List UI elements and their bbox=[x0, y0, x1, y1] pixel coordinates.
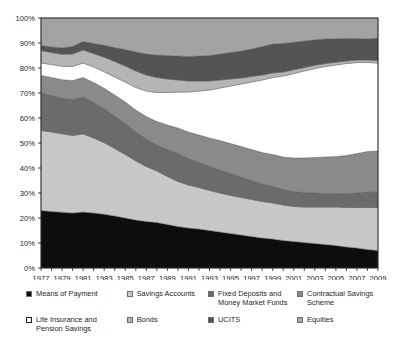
x-tick-label: 2007 bbox=[348, 274, 365, 280]
y-tick-label: 60% bbox=[20, 114, 35, 123]
legend-label: Bonds bbox=[137, 315, 158, 324]
y-tick-label: 20% bbox=[20, 214, 35, 223]
x-tick-label: 1977 bbox=[33, 274, 50, 280]
y-tick-label: 80% bbox=[20, 64, 35, 73]
legend-item[interactable]: Life Insurance and Pension Savings bbox=[26, 315, 127, 334]
legend-swatch-icon bbox=[297, 291, 303, 297]
legend-row: Life Insurance and Pension SavingsBondsU… bbox=[26, 315, 390, 334]
x-tick-label: 1989 bbox=[159, 274, 176, 280]
legend-label: Life Insurance and Pension Savings bbox=[36, 315, 123, 334]
legend-swatch-icon bbox=[208, 317, 214, 323]
chart-figure: 0%10%20%30%40%50%60%70%80%90%100%1977197… bbox=[0, 0, 396, 345]
legend-label: Equities bbox=[307, 315, 333, 324]
legend-swatch-icon bbox=[26, 291, 32, 297]
legend-label: Means of Payment bbox=[36, 289, 98, 298]
legend-row: Means of PaymentSavings AccountsFixed De… bbox=[26, 289, 390, 308]
x-tick-label: 2009 bbox=[370, 274, 387, 280]
legend-label: Contractual Savings Scheme bbox=[307, 289, 386, 308]
legend-swatch-icon bbox=[208, 291, 214, 297]
x-tick-label: 1991 bbox=[180, 274, 197, 280]
legend-label: Savings Accounts bbox=[137, 289, 195, 298]
legend-item[interactable]: Bonds bbox=[127, 315, 208, 334]
y-tick-label: 90% bbox=[20, 39, 35, 48]
chart-legend: Means of PaymentSavings AccountsFixed De… bbox=[0, 286, 396, 345]
x-tick-label: 1997 bbox=[243, 274, 260, 280]
x-tick-label: 1999 bbox=[264, 274, 281, 280]
x-tick-label: 2003 bbox=[306, 274, 323, 280]
legend-item[interactable]: UCITS bbox=[208, 315, 297, 334]
x-tick-label: 1983 bbox=[96, 274, 113, 280]
y-tick-label: 30% bbox=[20, 189, 35, 198]
y-tick-label: 0% bbox=[24, 264, 35, 273]
y-tick-label: 50% bbox=[20, 139, 35, 148]
legend-swatch-icon bbox=[297, 317, 303, 323]
y-tick-label: 10% bbox=[20, 239, 35, 248]
x-tick-label: 1995 bbox=[222, 274, 239, 280]
x-tick-label: 1981 bbox=[75, 274, 92, 280]
legend-swatch-icon bbox=[26, 317, 32, 323]
x-tick-label: 1993 bbox=[201, 274, 218, 280]
x-tick-label: 1985 bbox=[117, 274, 134, 280]
x-tick-label: 1987 bbox=[138, 274, 155, 280]
legend-item[interactable]: Contractual Savings Scheme bbox=[297, 289, 390, 308]
y-tick-label: 70% bbox=[20, 89, 35, 98]
stacked-area-chart: 0%10%20%30%40%50%60%70%80%90%100%1977197… bbox=[0, 0, 396, 280]
legend-item[interactable]: Equities bbox=[297, 315, 390, 334]
legend-swatch-icon bbox=[127, 317, 133, 323]
legend-item[interactable]: Fixed Deposits and Money Market Funds bbox=[208, 289, 297, 308]
legend-item[interactable]: Savings Accounts bbox=[127, 289, 208, 308]
legend-label: UCITS bbox=[218, 315, 240, 324]
legend-item[interactable]: Means of Payment bbox=[26, 289, 127, 308]
y-tick-label: 40% bbox=[20, 164, 35, 173]
legend-swatch-icon bbox=[127, 291, 133, 297]
legend-label: Fixed Deposits and Money Market Funds bbox=[218, 289, 293, 308]
x-tick-label: 2005 bbox=[327, 274, 344, 280]
y-tick-label: 100% bbox=[16, 14, 36, 23]
x-tick-label: 1979 bbox=[54, 274, 71, 280]
plot-area-wrapper: 0%10%20%30%40%50%60%70%80%90%100%1977197… bbox=[0, 0, 396, 280]
x-tick-label: 2001 bbox=[285, 274, 302, 280]
